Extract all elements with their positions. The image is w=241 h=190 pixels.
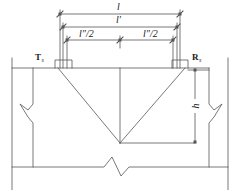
label-right-support-reaction: Rs xyxy=(192,53,201,62)
crack-line-right xyxy=(120,68,185,143)
label-section-depth: h xyxy=(191,99,201,113)
bottom-surface-line-with-break xyxy=(12,157,228,176)
dot-clear-left xyxy=(62,26,65,29)
dot-depth-bottom xyxy=(194,141,197,144)
dot-halves-left xyxy=(66,39,69,42)
right-inner-edge-with-break xyxy=(209,68,222,167)
right-support-symbol: R xyxy=(192,52,199,62)
left-inner-edge-with-break xyxy=(20,68,33,167)
crack-line-left xyxy=(58,68,120,143)
label-overall-span: l xyxy=(116,2,121,12)
label-left-support-reaction: Ts xyxy=(35,53,43,62)
left-support-subscript: s xyxy=(42,57,44,63)
dot-halves-center xyxy=(119,39,122,42)
dot-depth-top xyxy=(194,69,197,72)
section-diagram-svg xyxy=(0,0,241,190)
dot-clear-right xyxy=(176,26,179,29)
dot-halves-right xyxy=(172,39,175,42)
dot-overall-left xyxy=(59,13,62,16)
label-half-span-left: l″/2 xyxy=(78,29,95,39)
label-half-span-right: l″/2 xyxy=(142,29,159,39)
right-support-subscript: s xyxy=(199,57,201,63)
left-support-symbol: T xyxy=(35,52,41,62)
left-bearing-pad xyxy=(55,60,72,68)
label-clear-span: l′ xyxy=(115,15,122,25)
dot-overall-right xyxy=(179,13,182,16)
figure-container: l l′ l″/2 l″/2 Ts Rs h xyxy=(0,0,241,190)
